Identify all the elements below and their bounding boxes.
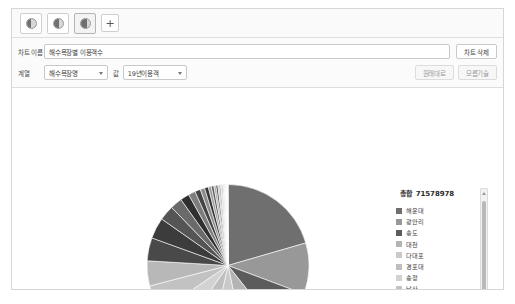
legend-item-label: 광안리 xyxy=(406,217,423,226)
legend-total-value: 71578978 xyxy=(416,190,454,198)
legend-item[interactable]: 송정 xyxy=(396,272,484,283)
legend-item-label: 다대포 xyxy=(406,251,423,260)
legend-item[interactable]: 광안리 xyxy=(396,216,484,227)
legend-color-swatch xyxy=(396,252,402,258)
chart-title-input[interactable] xyxy=(44,44,450,59)
delete-chart-button[interactable]: 차트 삭제 xyxy=(456,44,497,59)
legend-item-label: 송도 xyxy=(406,228,418,237)
pie-chart xyxy=(130,184,326,289)
chart-canvas-area: 총합71578978 해운대광안리송도대천다대포경포대송정낙산속초삼척망상 xyxy=(12,88,503,289)
legend-color-swatch xyxy=(396,208,402,214)
chart-editor-window: + 차트 이름 차트 삭제 계열 해수욕장명 값 19년이용객 원래대로 모름기… xyxy=(11,8,504,290)
pie-chart-icon xyxy=(26,18,37,29)
legend-item[interactable]: 다대포 xyxy=(396,250,484,261)
clear-all-button[interactable]: 모름기술 xyxy=(458,65,497,80)
legend-color-swatch xyxy=(396,264,402,270)
legend-item[interactable]: 대천 xyxy=(396,239,484,250)
value-select-value: 19년이용객 xyxy=(128,68,159,78)
legend-color-swatch xyxy=(396,230,402,236)
legend-item[interactable]: 해운대 xyxy=(396,205,484,216)
chart-title-row: 차트 이름 차트 삭제 xyxy=(18,43,497,60)
legend-total-label: 총합 xyxy=(400,190,412,198)
legend-item[interactable]: 경포대 xyxy=(396,261,484,272)
legend-item-label: 경포대 xyxy=(406,262,423,271)
pie-chart-icon xyxy=(80,18,91,29)
chart-tab-1[interactable] xyxy=(20,13,42,34)
legend-item[interactable]: 낙산 xyxy=(396,283,484,289)
pie-chart-svg xyxy=(130,184,326,289)
chevron-down-icon xyxy=(178,72,182,75)
chart-control-panel: 차트 이름 차트 삭제 계열 해수욕장명 값 19년이용객 원래대로 모름기술 xyxy=(12,38,503,88)
series-select-value: 해수욕장명 xyxy=(49,68,78,78)
scroll-up-icon[interactable] xyxy=(482,192,486,195)
value-select[interactable]: 19년이용객 xyxy=(123,65,187,80)
legend-item[interactable]: 송도 xyxy=(396,227,484,238)
scrollbar-thumb[interactable] xyxy=(482,201,486,289)
legend-item-label: 낙산 xyxy=(406,284,418,289)
series-select[interactable]: 해수욕장명 xyxy=(44,65,108,80)
value-label: 값 xyxy=(113,68,119,78)
add-chart-button[interactable]: + xyxy=(101,14,119,32)
chart-tab-3[interactable] xyxy=(74,13,96,34)
chart-fields-row: 계열 해수욕장명 값 19년이용객 원래대로 모름기술 xyxy=(18,64,497,81)
legend-item-label: 대천 xyxy=(406,240,418,249)
legend-color-swatch xyxy=(396,219,402,225)
legend-color-swatch xyxy=(396,275,402,281)
legend-list: 해운대광안리송도대천다대포경포대송정낙산속초삼척망상 xyxy=(388,205,484,289)
reset-button[interactable]: 원래대로 xyxy=(415,65,454,80)
series-label: 계열 xyxy=(18,68,44,78)
legend-scrollbar[interactable] xyxy=(480,188,488,289)
legend-item-label: 송정 xyxy=(406,273,418,282)
chart-legend: 총합71578978 해운대광안리송도대천다대포경포대송정낙산속초삼척망상 xyxy=(388,188,484,289)
legend-color-swatch xyxy=(396,241,402,247)
chart-tab-strip: + xyxy=(12,9,503,38)
legend-item-label: 해운대 xyxy=(406,206,423,215)
legend-total: 총합71578978 xyxy=(400,188,484,198)
chart-tab-2[interactable] xyxy=(47,13,69,34)
legend-color-swatch xyxy=(396,286,402,289)
pie-chart-icon xyxy=(53,18,64,29)
chevron-down-icon xyxy=(99,72,103,75)
chart-title-label: 차트 이름 xyxy=(18,47,44,57)
